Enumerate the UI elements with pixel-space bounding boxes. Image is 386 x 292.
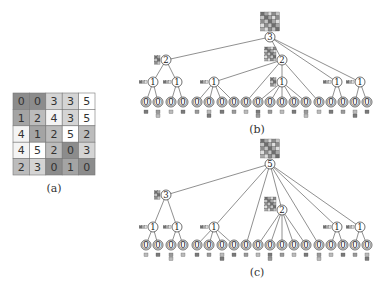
svg-text:4: 4 bbox=[51, 112, 58, 125]
tree-edge bbox=[214, 164, 270, 227]
tree-node: 2 bbox=[265, 197, 287, 215]
region-thumbnail-icon bbox=[261, 139, 280, 158]
node-label: 0 bbox=[180, 97, 185, 107]
svg-text:5: 5 bbox=[34, 144, 41, 157]
grid-cell: 1 bbox=[62, 159, 78, 175]
node-label: 0 bbox=[255, 240, 260, 250]
leaf-pixel-icon bbox=[304, 110, 308, 118]
leaf-pixel-icon bbox=[207, 110, 211, 118]
leaf-pixel-icon bbox=[195, 253, 199, 257]
tree-node: 3 bbox=[154, 190, 171, 200]
panel-b-tree: 3221111110000000000000000000 bbox=[139, 12, 372, 118]
leaf-node: 0 bbox=[153, 240, 163, 257]
leaf-node: 0 bbox=[178, 240, 188, 257]
node-label: 0 bbox=[219, 240, 224, 250]
leaf-pixel-icon bbox=[156, 110, 160, 118]
node-label: 0 bbox=[364, 97, 369, 107]
node-label: 0 bbox=[194, 240, 199, 250]
node-label: 0 bbox=[267, 97, 272, 107]
leaf-node: 0 bbox=[350, 97, 360, 118]
svg-text:3: 3 bbox=[51, 95, 58, 108]
leaf-node: 0 bbox=[241, 97, 251, 114]
svg-text:5: 5 bbox=[83, 95, 90, 108]
region-thumbnail-icon bbox=[200, 81, 208, 84]
grid-cell: 5 bbox=[62, 126, 78, 142]
svg-text:5: 5 bbox=[67, 128, 74, 141]
tree-node: 2 bbox=[154, 55, 171, 65]
tree-edge bbox=[270, 164, 319, 245]
leaf-pixel-icon bbox=[169, 253, 173, 261]
leaf-pixel-icon bbox=[292, 110, 296, 114]
node-label: 0 bbox=[143, 97, 148, 107]
grid-cell: 3 bbox=[79, 142, 95, 158]
node-label: 1 bbox=[334, 77, 339, 87]
grid-cell: 0 bbox=[46, 159, 62, 175]
leaf-node: 0 bbox=[362, 97, 372, 114]
svg-text:0: 0 bbox=[67, 144, 74, 157]
panel-a-grid: 0033512435412524520323010 bbox=[13, 93, 95, 175]
node-label: 0 bbox=[206, 240, 211, 250]
grid-cell: 3 bbox=[29, 159, 45, 175]
node-label: 0 bbox=[206, 97, 211, 107]
grid-cell: 4 bbox=[46, 109, 62, 125]
grid-cell: 4 bbox=[13, 142, 29, 158]
caption-a: (a) bbox=[46, 182, 61, 195]
leaf-pixel-icon bbox=[181, 253, 185, 257]
grid-cell: 3 bbox=[62, 93, 78, 109]
region-thumbnail-icon bbox=[154, 191, 160, 199]
leaf-pixel-icon bbox=[317, 253, 321, 261]
node-label: 0 bbox=[194, 97, 199, 107]
leaf-pixel-icon bbox=[207, 253, 211, 257]
node-label: 1 bbox=[211, 77, 216, 87]
leaf-pixel-icon bbox=[144, 253, 148, 257]
leaf-pixel-icon bbox=[220, 253, 224, 261]
leaf-pixel-icon bbox=[280, 110, 284, 114]
svg-text:2: 2 bbox=[34, 112, 41, 125]
leaf-pixel-icon bbox=[244, 253, 248, 257]
tree-node: 5 bbox=[261, 139, 280, 169]
region-thumbnail-icon bbox=[323, 81, 331, 84]
svg-text:3: 3 bbox=[67, 95, 74, 108]
node-label: 1 bbox=[334, 222, 339, 232]
node-label: 1 bbox=[174, 77, 179, 87]
leaf-node: 0 bbox=[141, 240, 151, 257]
leaf-node: 0 bbox=[362, 240, 372, 261]
panel-c-tree: 532111110000000000000000000 bbox=[139, 139, 372, 261]
region-thumbnail-icon bbox=[270, 78, 276, 86]
leaf-pixel-icon bbox=[256, 253, 260, 257]
node-label: 0 bbox=[279, 97, 284, 107]
leaf-pixel-icon bbox=[195, 110, 199, 114]
node-label: 2 bbox=[279, 55, 284, 65]
leaf-pixel-icon bbox=[353, 110, 357, 118]
node-label: 2 bbox=[163, 55, 168, 65]
region-thumbnail-icon bbox=[323, 226, 331, 229]
node-label: 0 bbox=[168, 240, 173, 250]
node-label: 1 bbox=[211, 222, 216, 232]
tree-node: 1 bbox=[139, 77, 158, 87]
tree-node: 2 bbox=[265, 47, 287, 65]
svg-text:2: 2 bbox=[51, 128, 58, 141]
node-label: 0 bbox=[231, 240, 236, 250]
tree-node: 1 bbox=[163, 222, 182, 232]
leaf-node: 0 bbox=[253, 240, 263, 257]
region-thumbnail-icon bbox=[200, 226, 208, 229]
tree-node: 1 bbox=[163, 77, 182, 87]
svg-text:3: 3 bbox=[67, 112, 74, 125]
grid-cell: 5 bbox=[29, 142, 45, 158]
leaf-node: 0 bbox=[241, 240, 251, 257]
svg-text:1: 1 bbox=[18, 112, 25, 125]
node-label: 0 bbox=[303, 240, 308, 250]
leaf-pixel-icon bbox=[353, 253, 357, 257]
node-label: 1 bbox=[174, 222, 179, 232]
region-thumbnail-icon bbox=[163, 81, 171, 84]
region-thumbnail-icon bbox=[261, 12, 280, 31]
tree-node: 1 bbox=[270, 77, 287, 87]
grid-cell: 0 bbox=[29, 93, 45, 109]
svg-text:3: 3 bbox=[34, 161, 41, 174]
leaf-pixel-icon bbox=[181, 110, 185, 114]
node-label: 1 bbox=[150, 222, 155, 232]
node-label: 0 bbox=[328, 97, 333, 107]
node-label: 0 bbox=[316, 240, 321, 250]
leaf-node: 0 bbox=[253, 97, 263, 118]
leaf-node: 0 bbox=[338, 97, 348, 114]
